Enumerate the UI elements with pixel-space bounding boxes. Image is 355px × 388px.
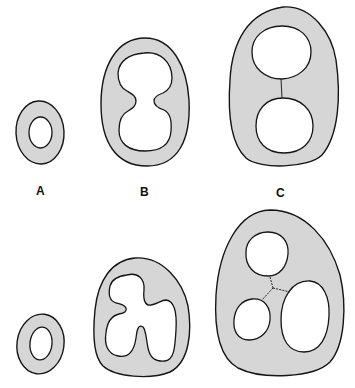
cross-section-b-bottom xyxy=(94,258,190,377)
lumen-left xyxy=(234,299,270,340)
lumen-right xyxy=(281,281,329,352)
lumen xyxy=(29,117,52,148)
cross-section-a-top xyxy=(14,100,65,165)
label-b: B xyxy=(140,185,149,199)
label-c: C xyxy=(276,186,285,200)
label-a: A xyxy=(36,184,45,198)
cross-section-c-bottom xyxy=(216,210,344,376)
lumen-upper xyxy=(252,26,311,79)
cross-section-a-bottom xyxy=(13,311,68,377)
lumen-lower xyxy=(256,98,313,153)
cross-section-c-top xyxy=(229,7,338,166)
diagram-figure xyxy=(0,0,355,388)
lumen-top xyxy=(246,232,288,276)
cross-section-b-top xyxy=(101,38,189,166)
